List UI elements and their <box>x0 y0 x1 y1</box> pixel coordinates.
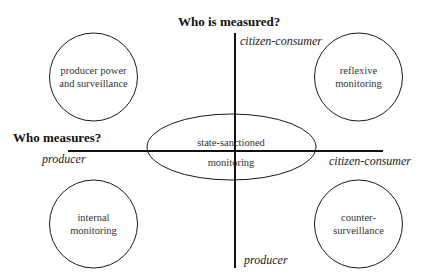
node-counter-surveillance: counter- surveillance <box>314 212 403 237</box>
node-line-2: surveillance <box>314 225 403 238</box>
node-line-2: monitoring <box>49 225 138 238</box>
node-line-1: producer power <box>49 65 138 78</box>
horizontal-axis-left-label: producer <box>42 153 86 165</box>
node-state-sanctioned: state-sanctioned monitoring <box>186 131 276 175</box>
node-line-1: internal <box>49 212 138 225</box>
vertical-axis-title: Who is measured? <box>178 15 280 28</box>
horizontal-axis-right-label: citizen-consumer <box>329 155 411 167</box>
horizontal-axis-title: Who measures? <box>13 131 101 144</box>
node-producer-power: producer power and surveillance <box>49 65 138 90</box>
vertical-axis-top-label: citizen-consumer <box>240 35 322 47</box>
node-line-2: monitoring <box>314 78 403 91</box>
node-reflexive-monitoring: reflexive monitoring <box>314 65 403 90</box>
vertical-axis-bottom-label: producer <box>244 254 288 266</box>
node-line-1: counter- <box>314 212 403 225</box>
node-line-2: and surveillance <box>49 78 138 91</box>
node-line-1: reflexive <box>314 65 403 78</box>
node-internal-monitoring: internal monitoring <box>49 212 138 237</box>
